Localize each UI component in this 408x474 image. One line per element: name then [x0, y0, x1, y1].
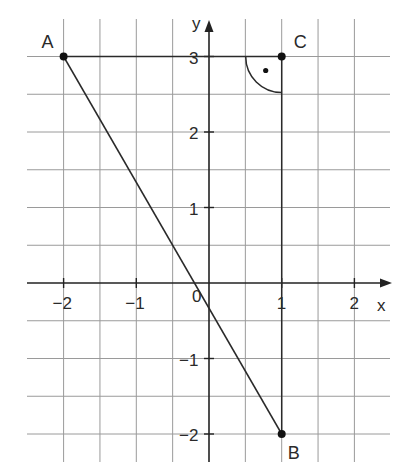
point-label-B: B	[288, 444, 300, 462]
diagram-svg	[0, 0, 408, 474]
point-label-C: C	[294, 33, 307, 51]
y-axis-arrow-icon	[205, 20, 214, 32]
y-tick-label: 1	[189, 201, 198, 218]
y-axis-label: y	[192, 15, 201, 32]
point-label-A: A	[42, 33, 54, 51]
y-tick-label: −2	[179, 427, 198, 444]
right-angle-arc	[246, 57, 282, 93]
x-tick-label: 2	[349, 295, 358, 312]
point-B	[278, 430, 286, 438]
axes	[27, 20, 392, 462]
coordinate-diagram: x y 0 −2−112 321−1−2 ABC	[0, 0, 408, 474]
right-angle-dot-icon	[263, 68, 268, 73]
x-axis-label: x	[377, 297, 386, 314]
y-tick-label: 2	[189, 125, 198, 142]
x-tick-label: −2	[53, 295, 72, 312]
x-tick-label: −1	[125, 295, 144, 312]
y-tick-label: −1	[179, 352, 198, 369]
point-A	[60, 53, 68, 61]
x-axis-arrow-icon	[380, 279, 392, 288]
x-tick-label: 1	[277, 295, 286, 312]
point-C	[278, 53, 286, 61]
y-tick-label: 3	[189, 50, 198, 67]
origin-label: 0	[192, 288, 201, 305]
